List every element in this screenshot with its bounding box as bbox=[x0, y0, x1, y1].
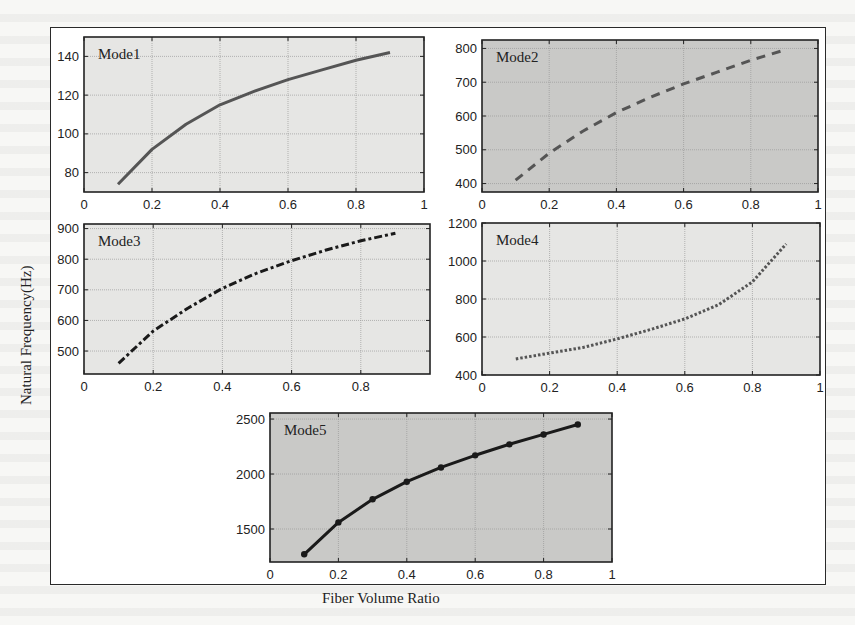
y-tick-label: 2500 bbox=[236, 412, 265, 427]
subplot-mode5: 00.20.40.60.81150020002500Mode5 bbox=[236, 412, 616, 582]
data-marker bbox=[472, 452, 478, 458]
x-tick-label: 0.4 bbox=[211, 197, 229, 212]
data-marker bbox=[438, 464, 444, 470]
x-tick-label: 0 bbox=[478, 380, 485, 395]
y-tick-label: 500 bbox=[455, 142, 477, 157]
x-tick-label: 1 bbox=[608, 567, 615, 582]
subplot-title: Mode1 bbox=[98, 46, 141, 62]
y-tick-label: 1200 bbox=[448, 216, 477, 231]
x-tick-label: 0.4 bbox=[608, 380, 626, 395]
x-tick-label: 0.2 bbox=[143, 197, 161, 212]
y-tick-label: 700 bbox=[455, 75, 477, 90]
subplot-mode2: 00.20.40.60.81400500600700800Mode2 bbox=[455, 40, 821, 212]
data-marker bbox=[404, 479, 410, 485]
x-tick-label: 0.4 bbox=[213, 379, 231, 394]
x-tick-label: 0.8 bbox=[347, 197, 365, 212]
y-tick-label: 400 bbox=[455, 368, 477, 383]
x-tick-label: 0.6 bbox=[283, 379, 301, 394]
data-marker bbox=[335, 519, 341, 525]
y-tick-label: 100 bbox=[57, 126, 79, 141]
x-tick-label: 0 bbox=[478, 197, 485, 212]
subplot-title: Mode2 bbox=[496, 49, 539, 65]
y-tick-label: 600 bbox=[57, 313, 79, 328]
x-tick-label: 1 bbox=[814, 197, 821, 212]
y-tick-label: 1500 bbox=[236, 522, 265, 537]
subplot-title: Mode5 bbox=[284, 422, 327, 438]
x-tick-label: 0.8 bbox=[535, 567, 553, 582]
x-tick-label: 0 bbox=[80, 379, 87, 394]
y-tick-label: 800 bbox=[57, 252, 79, 267]
x-tick-label: 0.2 bbox=[329, 567, 347, 582]
y-tick-label: 140 bbox=[57, 49, 79, 64]
x-tick-label: 0 bbox=[266, 567, 273, 582]
x-tick-label: 0.2 bbox=[144, 379, 162, 394]
x-tick-label: 0.8 bbox=[742, 197, 760, 212]
data-marker bbox=[369, 496, 375, 502]
x-tick-label: 0.2 bbox=[541, 380, 559, 395]
y-tick-label: 2000 bbox=[236, 467, 265, 482]
y-axis-label: Natural Frequency(Hz) bbox=[18, 265, 35, 405]
x-tick-label: 0.6 bbox=[279, 197, 297, 212]
x-tick-label: 0.6 bbox=[675, 197, 693, 212]
x-axis-label: Fiber Volume Ratio bbox=[322, 590, 440, 607]
y-tick-label: 80 bbox=[65, 165, 79, 180]
x-tick-label: 0.4 bbox=[607, 197, 625, 212]
x-tick-label: 0.2 bbox=[540, 197, 558, 212]
y-tick-label: 600 bbox=[455, 330, 477, 345]
subplot-mode1: 00.20.40.60.8180100120140Mode1 bbox=[57, 37, 427, 212]
x-tick-label: 0.8 bbox=[352, 379, 370, 394]
subplot-title: Mode4 bbox=[496, 232, 539, 248]
x-tick-label: 0.6 bbox=[466, 567, 484, 582]
y-tick-label: 600 bbox=[455, 109, 477, 124]
x-tick-label: 1 bbox=[420, 197, 427, 212]
y-tick-label: 120 bbox=[57, 88, 79, 103]
subplot-mode3: 00.20.40.60.8500600700800900Mode3 bbox=[57, 221, 430, 394]
data-marker bbox=[540, 431, 546, 437]
subplot-title: Mode3 bbox=[98, 233, 141, 249]
x-tick-label: 1 bbox=[816, 380, 823, 395]
x-tick-label: 0.8 bbox=[743, 380, 761, 395]
x-tick-label: 0 bbox=[80, 197, 87, 212]
y-tick-label: 900 bbox=[57, 221, 79, 236]
data-marker bbox=[301, 551, 307, 557]
y-tick-label: 400 bbox=[455, 176, 477, 191]
data-marker bbox=[506, 441, 512, 447]
y-tick-label: 800 bbox=[455, 292, 477, 307]
y-tick-label: 800 bbox=[455, 41, 477, 56]
subplot-mode4: 00.20.40.60.8140060080010001200Mode4 bbox=[448, 216, 824, 396]
y-tick-label: 1000 bbox=[448, 254, 477, 269]
x-tick-label: 0.6 bbox=[676, 380, 694, 395]
y-tick-label: 500 bbox=[57, 344, 79, 359]
x-tick-label: 0.4 bbox=[398, 567, 416, 582]
data-marker bbox=[575, 421, 581, 427]
y-tick-label: 700 bbox=[57, 282, 79, 297]
subplots-canvas: 00.20.40.60.8180100120140Mode100.20.40.6… bbox=[0, 0, 855, 625]
